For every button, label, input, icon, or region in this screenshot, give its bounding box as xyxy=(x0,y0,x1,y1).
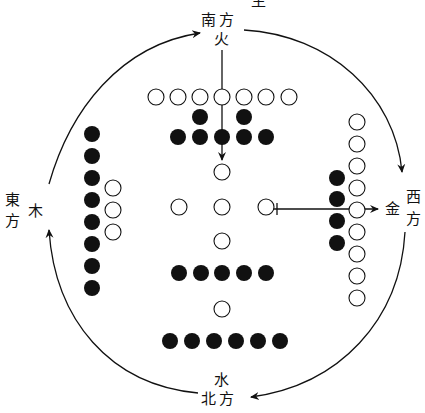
filled-dot xyxy=(236,109,252,125)
filled-dot xyxy=(214,265,230,281)
open-dot xyxy=(349,268,365,284)
label-south-direction: 南方 xyxy=(201,13,237,28)
filled-dot xyxy=(84,236,100,252)
arc-north-to-east-arrow xyxy=(49,230,198,393)
filled-dot xyxy=(206,333,222,349)
filled-dot xyxy=(84,280,100,296)
open-dot xyxy=(349,136,365,152)
north-black-6 xyxy=(162,333,288,349)
north-open-1 xyxy=(214,301,230,317)
open-dot xyxy=(105,180,121,196)
filled-dot xyxy=(250,333,266,349)
filled-dot xyxy=(193,265,209,281)
filled-dot xyxy=(184,333,200,349)
diagram-canvas xyxy=(0,0,425,413)
open-dot xyxy=(214,164,230,180)
filled-dot xyxy=(329,235,345,251)
filled-dot xyxy=(84,214,100,230)
label-west-direction-1: 西 xyxy=(406,190,421,205)
east-black-8 xyxy=(84,126,100,296)
filled-dot xyxy=(236,265,252,281)
filled-dot xyxy=(258,265,274,281)
label-west-element-metal: 金 xyxy=(385,202,400,217)
filled-dot xyxy=(329,213,345,229)
west-black-4 xyxy=(329,170,345,251)
filled-dot xyxy=(84,126,100,142)
open-dot xyxy=(105,202,121,218)
open-dot xyxy=(214,233,230,249)
filled-dot xyxy=(272,333,288,349)
open-dot xyxy=(349,114,365,130)
arc-west-to-north-arrow xyxy=(251,232,405,397)
filled-dot xyxy=(84,170,100,186)
open-dot xyxy=(105,224,121,240)
filled-dot xyxy=(170,129,186,145)
filled-dot xyxy=(84,192,100,208)
open-dot xyxy=(258,199,274,215)
east-open-3 xyxy=(105,180,121,240)
open-dot xyxy=(349,290,365,306)
label-south-element-fire: 火 xyxy=(214,32,229,47)
arc-east-to-south-arrow xyxy=(49,33,200,184)
filled-dot xyxy=(192,129,208,145)
west-open-9 xyxy=(349,114,365,306)
center-open-5 xyxy=(171,164,274,249)
filled-dot xyxy=(329,191,345,207)
dot-groups xyxy=(84,89,365,349)
label-west-direction-2: 方 xyxy=(406,212,421,227)
open-dot xyxy=(236,89,252,105)
south-black-5 xyxy=(170,129,274,145)
open-dot xyxy=(171,199,187,215)
open-dot xyxy=(281,89,297,105)
center-black-5 xyxy=(171,265,274,281)
label-north-direction: 北方 xyxy=(201,392,237,407)
open-dot xyxy=(192,89,208,105)
label-north-element-water: 水 xyxy=(214,373,229,388)
open-dot xyxy=(349,158,365,174)
open-dot xyxy=(258,89,274,105)
filled-dot xyxy=(258,129,274,145)
open-dot xyxy=(214,301,230,317)
filled-dot xyxy=(84,258,100,274)
open-dot xyxy=(349,180,365,196)
open-dot xyxy=(170,89,186,105)
filled-dot xyxy=(214,129,230,145)
open-dot xyxy=(214,199,230,215)
open-dot xyxy=(148,89,164,105)
open-dot xyxy=(214,89,230,105)
south-outer-open-7 xyxy=(148,89,297,105)
filled-dot xyxy=(171,265,187,281)
label-east-direction-1: 東 xyxy=(5,193,20,208)
hetu-diagram: 生 南方 火 東 方 木 金 西 方 水 北方 xyxy=(0,0,425,413)
open-dot xyxy=(349,202,365,218)
filled-dot xyxy=(236,129,252,145)
open-dot xyxy=(349,246,365,262)
label-east-direction-2: 方 xyxy=(5,214,20,229)
filled-dot xyxy=(228,333,244,349)
open-dot xyxy=(349,224,365,240)
filled-dot xyxy=(192,109,208,125)
filled-dot xyxy=(162,333,178,349)
label-east-element-wood: 木 xyxy=(28,204,43,219)
filled-dot xyxy=(84,148,100,164)
label-sheng: 生 xyxy=(251,0,266,9)
filled-dot xyxy=(329,170,345,186)
